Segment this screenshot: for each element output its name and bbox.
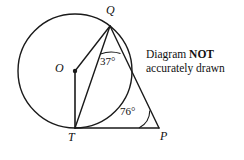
vertex-label-T: T xyxy=(68,131,75,143)
note-line-2: accurately drawn xyxy=(146,61,242,75)
note-emphasis-not: NOT xyxy=(189,48,214,60)
geometry-figure-canvas: Q O T P 37° 76° Diagram NOT accurately d… xyxy=(0,0,244,160)
center-point-marker xyxy=(73,69,77,73)
angle-label-Q: 37° xyxy=(100,56,115,67)
note-line-1: Diagram NOT xyxy=(146,47,242,61)
vertex-label-P: P xyxy=(160,130,167,142)
angle-arc-P xyxy=(139,111,150,129)
vertex-label-Q: Q xyxy=(106,4,115,16)
segment-QT xyxy=(75,26,110,128)
vertex-label-O: O xyxy=(55,62,64,74)
angle-arc-Q xyxy=(101,52,121,54)
angle-label-P: 76° xyxy=(120,106,135,117)
figure-svg xyxy=(0,0,244,160)
note-line-1-prefix: Diagram xyxy=(146,48,189,60)
diagram-note: Diagram NOT accurately drawn xyxy=(146,47,242,75)
